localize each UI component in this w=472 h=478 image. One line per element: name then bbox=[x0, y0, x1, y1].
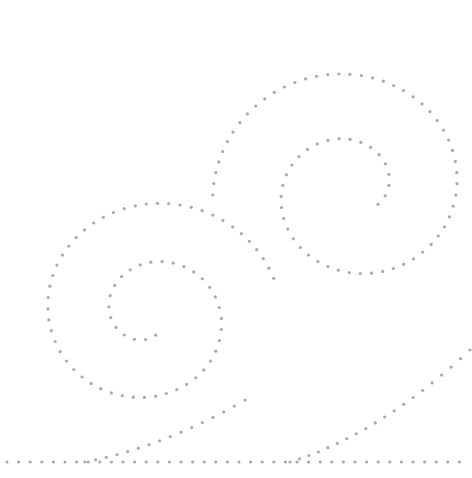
lower-left-spiral-dot bbox=[194, 376, 197, 379]
lower-left-spiral-dot bbox=[185, 383, 188, 386]
lower-left-spiral-dot bbox=[172, 262, 175, 265]
lower-left-spiral-dot bbox=[132, 396, 135, 399]
lower-left-spiral-dot bbox=[51, 274, 54, 277]
baseline-dot bbox=[5, 460, 8, 463]
left-tail-dot bbox=[137, 447, 140, 450]
lower-left-spiral-dot bbox=[262, 257, 265, 260]
upper-right-spiral-dot bbox=[337, 269, 340, 272]
right-tail-dot bbox=[421, 389, 424, 392]
upper-right-spiral-dot bbox=[280, 195, 283, 198]
upper-right-spiral-dot bbox=[292, 237, 295, 240]
upper-right-spiral-dot bbox=[281, 184, 284, 187]
lower-left-spiral-dot bbox=[46, 307, 49, 310]
baseline-dot bbox=[203, 460, 206, 463]
baseline-dot bbox=[191, 460, 194, 463]
baseline-dot bbox=[284, 460, 287, 463]
lower-left-spiral-dot bbox=[112, 211, 115, 214]
upper-right-spiral-dot bbox=[299, 246, 302, 249]
baseline-dot bbox=[156, 460, 159, 463]
upper-right-spiral-dot bbox=[214, 171, 217, 174]
upper-right-spiral-dot bbox=[454, 160, 457, 163]
lower-left-spiral-dot bbox=[144, 338, 147, 341]
lower-left-spiral-dot bbox=[178, 203, 181, 206]
lower-left-spiral-dot bbox=[161, 260, 164, 263]
upper-right-spiral-dot bbox=[376, 203, 379, 206]
right-tail-dot bbox=[412, 396, 415, 399]
upper-right-spiral-dot bbox=[387, 173, 390, 176]
baseline-dot bbox=[75, 460, 78, 463]
baseline-dot bbox=[179, 460, 182, 463]
left-tail-dot bbox=[233, 405, 236, 408]
lower-left-spiral-dot bbox=[67, 245, 70, 248]
right-tail-dot bbox=[450, 366, 453, 369]
baseline-dot bbox=[458, 460, 461, 463]
lower-left-spiral-dot bbox=[165, 392, 168, 395]
upper-right-spiral-dot bbox=[448, 215, 451, 218]
lower-left-spiral-dot bbox=[192, 270, 195, 273]
baseline-dot bbox=[330, 460, 333, 463]
upper-right-spiral-dot bbox=[387, 184, 390, 187]
baseline-dot bbox=[353, 460, 356, 463]
upper-right-spiral-dot bbox=[246, 112, 249, 115]
lower-left-spiral-dot bbox=[214, 295, 217, 298]
upper-right-spiral-dot bbox=[430, 243, 433, 246]
right-tail-dot bbox=[355, 432, 358, 435]
lower-left-spiral-dot bbox=[123, 333, 126, 336]
right-tail-dot bbox=[298, 457, 301, 460]
lower-left-spiral-dot bbox=[182, 265, 185, 268]
upper-right-spiral-dot bbox=[221, 150, 224, 153]
right-tail-dot bbox=[402, 403, 405, 406]
lower-left-spiral-dot bbox=[220, 317, 223, 320]
baseline-dot bbox=[63, 460, 66, 463]
lower-left-spiral-dot bbox=[220, 328, 223, 331]
baseline-dot bbox=[388, 460, 391, 463]
right-tail-dot bbox=[307, 454, 310, 457]
lower-left-spiral-dot bbox=[255, 248, 258, 251]
upper-right-spiral-dot bbox=[369, 146, 372, 149]
lower-left-spiral-dot bbox=[102, 216, 105, 219]
baseline-dot bbox=[411, 460, 414, 463]
upper-right-spiral-dot bbox=[436, 119, 439, 122]
upper-right-spiral-dot bbox=[437, 234, 440, 237]
upper-right-spiral-dot bbox=[307, 253, 310, 256]
lower-left-spiral-dot bbox=[201, 277, 204, 280]
lower-left-spiral-dot bbox=[211, 214, 214, 217]
left-tail-dot bbox=[179, 431, 182, 434]
right-tail-dot bbox=[336, 442, 339, 445]
lower-left-spiral-dot bbox=[214, 350, 217, 353]
upper-right-spiral-dot bbox=[226, 140, 229, 143]
upper-right-spiral-dot bbox=[452, 205, 455, 208]
right-tail-dot bbox=[383, 415, 386, 418]
lower-left-spiral-dot bbox=[240, 232, 243, 235]
lower-left-spiral-dot bbox=[120, 275, 123, 278]
upper-right-spiral-dot bbox=[442, 129, 445, 132]
right-tail-dot bbox=[288, 460, 291, 463]
lower-left-spiral-dot bbox=[123, 207, 126, 210]
upper-right-spiral-dot bbox=[384, 194, 387, 197]
lower-left-spiral-dot bbox=[109, 294, 112, 297]
upper-right-spiral-dot bbox=[231, 131, 234, 134]
lower-left-spiral-dot bbox=[139, 263, 142, 266]
right-tail-dot bbox=[468, 348, 471, 351]
lower-left-spiral-dot bbox=[90, 382, 93, 385]
left-tail-dot bbox=[94, 458, 97, 461]
upper-right-spiral-dot bbox=[371, 76, 374, 79]
lower-left-spiral-dot bbox=[167, 202, 170, 205]
lower-left-spiral-dot bbox=[267, 267, 270, 270]
right-tail-dot bbox=[364, 427, 367, 430]
baseline-dot bbox=[400, 460, 403, 463]
right-tail-dot bbox=[393, 409, 396, 412]
lower-left-spiral-dot bbox=[54, 340, 57, 343]
left-tail-dot bbox=[115, 453, 118, 456]
right-tail-dot bbox=[440, 374, 443, 377]
lower-left-spiral-dot bbox=[134, 204, 137, 207]
baseline-dot bbox=[226, 460, 229, 463]
upper-right-spiral-dot bbox=[337, 137, 340, 140]
lower-left-spiral-dot bbox=[209, 360, 212, 363]
upper-right-spiral-dot bbox=[304, 77, 307, 80]
upper-right-spiral-dot bbox=[254, 104, 257, 107]
upper-right-spiral-dot bbox=[428, 110, 431, 113]
lower-left-spiral-dot bbox=[83, 228, 86, 231]
lower-left-spiral-dot bbox=[190, 206, 193, 209]
lower-left-spiral-dot bbox=[110, 391, 113, 394]
